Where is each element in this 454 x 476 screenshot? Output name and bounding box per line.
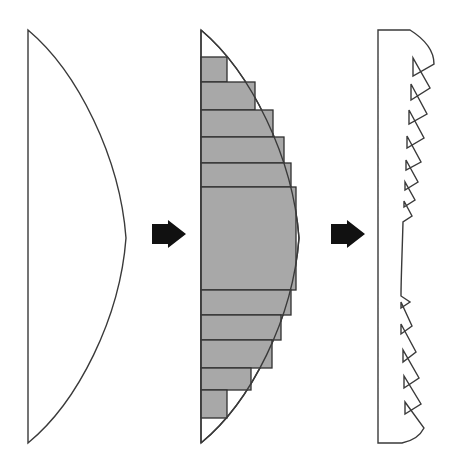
bar-rect-11[interactable] <box>201 390 227 418</box>
bar-rect-10[interactable] <box>201 368 251 390</box>
stage-1-smooth-lens[interactable] <box>28 30 126 443</box>
lens-outline-path <box>28 30 126 443</box>
bar-rect-2[interactable] <box>201 82 255 110</box>
diagram-canvas: Smooth lens outline Rectangle (Riemann) … <box>0 0 454 476</box>
bar-rect-7[interactable] <box>201 290 291 315</box>
right-arrow-icon-2 <box>331 220 365 248</box>
stage-2-rectangle-approximation[interactable] <box>201 30 299 443</box>
bar-rect-3[interactable] <box>201 110 273 137</box>
stage-3-serrated-profile[interactable] <box>378 30 434 443</box>
bar-rect-4[interactable] <box>201 137 284 163</box>
transform-arrow-2[interactable] <box>331 220 365 248</box>
bar-rect-6[interactable] <box>201 187 296 290</box>
right-arrow-icon <box>152 220 186 248</box>
serrated-outline-path <box>378 30 434 443</box>
bar-rect-1[interactable] <box>201 57 227 82</box>
transform-arrow-1[interactable] <box>152 220 186 248</box>
shape-discretization-diagram <box>0 0 454 476</box>
bar-rect-5[interactable] <box>201 163 291 187</box>
bar-rect-8[interactable] <box>201 315 281 340</box>
bar-stack <box>201 57 296 418</box>
bar-rect-9[interactable] <box>201 340 272 368</box>
